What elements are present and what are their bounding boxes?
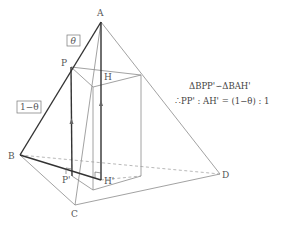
base-inner-right: [93, 176, 141, 190]
label-C: C: [71, 209, 78, 219]
pyramid-diagram: A P H B C D P' H' θ 1−θ ΔBPP'∽ΔBAH' ∴PP'…: [0, 0, 283, 229]
label-P-prime: P': [62, 175, 71, 185]
section-inner-right: [93, 75, 141, 87]
right-angle-H-prime: [95, 172, 101, 178]
arrow-PP-prime: [70, 118, 74, 124]
parallel-marks: [70, 100, 104, 124]
label-H: H: [104, 72, 112, 82]
ratio-equation: ∴PP' : AH' = (1−θ) : 1: [175, 96, 269, 106]
pyramid-edges: [20, 22, 220, 205]
theta-label: θ: [71, 36, 77, 46]
edge-AC: [75, 22, 101, 205]
edge-AB: [20, 22, 101, 155]
ratio-box-theta: θ: [67, 35, 80, 46]
arrow-AH-prime: [99, 100, 103, 106]
base-P-inner: [72, 176, 93, 190]
hidden-edges: [20, 155, 220, 180]
label-B: B: [8, 151, 15, 161]
label-P: P: [61, 58, 67, 68]
label-H-prime: H': [104, 176, 114, 186]
section-P-inner: [71, 67, 93, 87]
label-D: D: [222, 170, 229, 180]
similarity-equation: ΔBPP'∽ΔBAH': [189, 81, 251, 91]
label-A: A: [96, 8, 104, 18]
ratio-box-one-minus-theta: 1−θ: [17, 101, 41, 113]
one-minus-theta-label: 1−θ: [20, 102, 39, 112]
